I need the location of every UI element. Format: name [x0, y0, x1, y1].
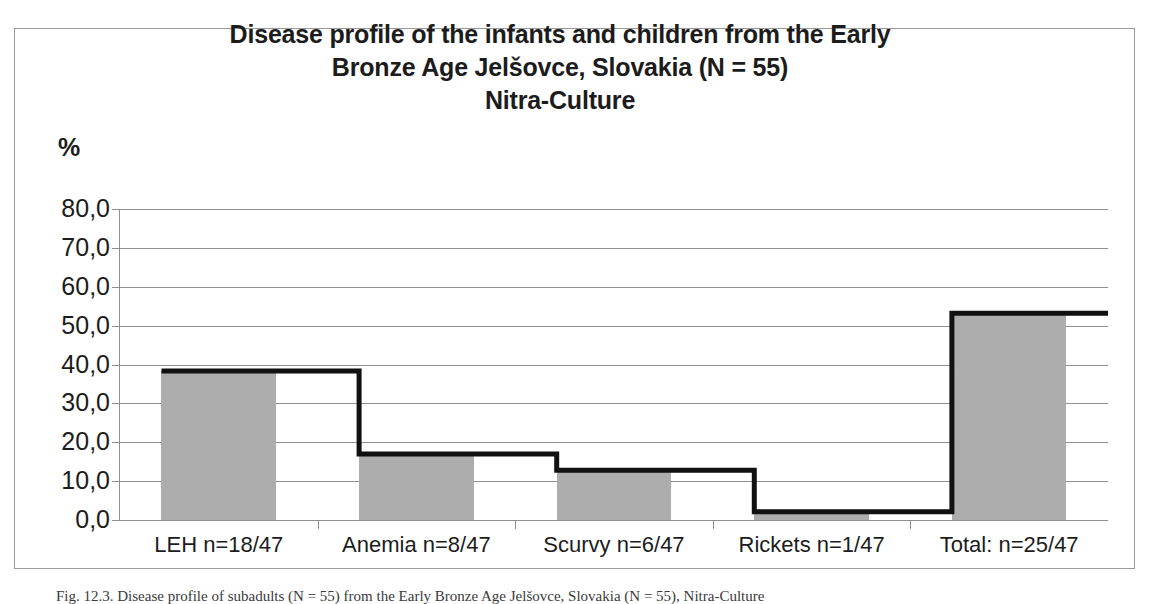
y-axis-tick	[112, 365, 120, 366]
y-axis-tick-label: 80,0	[24, 196, 110, 221]
y-axis-tick-label: 30,0	[24, 390, 110, 415]
y-axis-tick	[112, 481, 120, 482]
y-axis-tick-label: 40,0	[24, 352, 110, 377]
y-axis-tick	[112, 326, 120, 327]
y-axis-tick-labels: 80,070,060,050,040,030,020,010,00,0	[14, 209, 110, 520]
y-axis-tick-label: 50,0	[24, 313, 110, 338]
y-axis-tick	[112, 248, 120, 249]
y-axis-tick-label: 10,0	[24, 468, 110, 493]
chart-figure: Disease profile of the infants and child…	[0, 0, 1159, 604]
y-axis-tick-label: 60,0	[24, 274, 110, 299]
y-axis-tick-label: 20,0	[24, 429, 110, 454]
x-axis-category-label: Anemia n=8/47	[318, 532, 516, 558]
y-axis-tick-label: 70,0	[24, 235, 110, 260]
y-axis-tick	[112, 442, 120, 443]
y-axis-tick	[112, 520, 120, 521]
figure-caption: Fig. 12.3. Disease profile of subadults …	[56, 588, 1116, 604]
y-axis-tick-label: 0,0	[24, 507, 110, 532]
x-axis-tick-labels: LEH n=18/47Anemia n=8/47Scurvy n=6/47Ric…	[120, 0, 1108, 604]
y-axis-tick	[112, 403, 120, 404]
y-axis-tick	[112, 209, 120, 210]
x-axis-category-label: Scurvy n=6/47	[515, 532, 713, 558]
x-axis-category-label: LEH n=18/47	[120, 532, 318, 558]
y-axis-unit-label: %	[58, 133, 80, 162]
x-axis-category-label: Total: n=25/47	[910, 532, 1108, 558]
y-axis-tick	[112, 287, 120, 288]
x-axis-category-label: Rickets n=1/47	[713, 532, 911, 558]
